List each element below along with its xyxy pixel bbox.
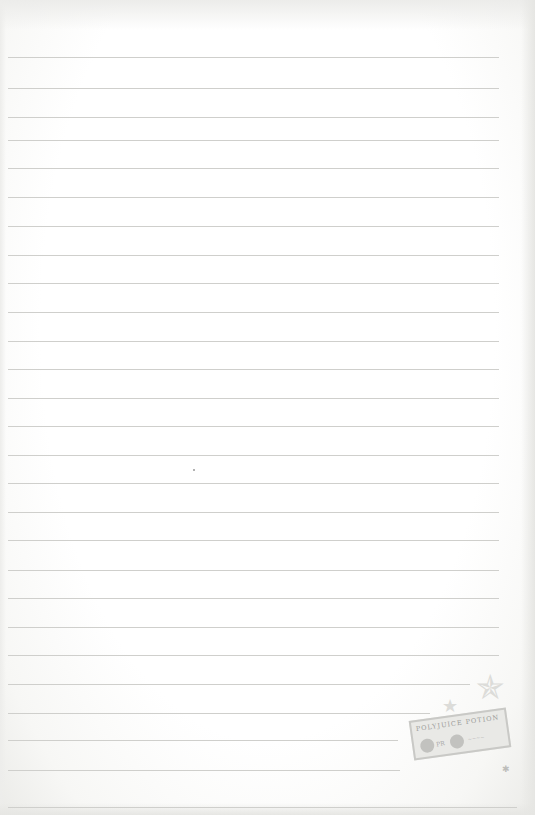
ruled-line <box>8 283 499 284</box>
seal-icon <box>449 734 465 750</box>
tiny-star-icon: ✱ <box>502 765 510 774</box>
lined-paper: ✯ ★ ✱ POLYJUICE POTION PR ~~~~ <box>0 0 535 815</box>
polyjuice-potion-label: POLYJUICE POTION PR ~~~~ <box>409 707 512 760</box>
top-edge-shadow <box>0 0 535 30</box>
ruled-line <box>8 197 499 198</box>
small-star-icon: ★ <box>442 697 458 715</box>
left-edge-shadow <box>0 0 6 815</box>
seal-icon <box>419 738 435 754</box>
ruled-line <box>8 807 517 808</box>
right-edge-shadow <box>521 0 535 815</box>
ruled-line <box>8 455 499 456</box>
ruled-line <box>8 740 398 741</box>
ruled-line <box>8 540 499 541</box>
ruled-line <box>8 168 499 169</box>
ruled-line <box>8 627 499 628</box>
ruled-line <box>8 369 499 370</box>
ruled-line <box>8 117 499 118</box>
ruled-line <box>8 713 430 714</box>
seal-text: PR <box>436 739 445 747</box>
ruled-line <box>8 684 470 685</box>
bottom-edge-shadow <box>0 803 535 815</box>
ruled-line <box>8 140 499 141</box>
speck <box>193 469 195 471</box>
large-star-icon: ✯ <box>476 670 504 704</box>
ruled-line <box>8 57 499 58</box>
ruled-line <box>8 483 499 484</box>
ruled-line <box>8 255 499 256</box>
ruled-line <box>8 770 400 771</box>
label-fine-print: ~~~~ <box>467 734 484 742</box>
ruled-line <box>8 570 499 571</box>
ruled-line <box>8 341 499 342</box>
ruled-line <box>8 312 499 313</box>
ruled-line <box>8 226 499 227</box>
ruled-line <box>8 655 499 656</box>
ruled-line <box>8 598 499 599</box>
ruled-line <box>8 426 499 427</box>
ruled-line <box>8 398 499 399</box>
ruled-line <box>8 512 499 513</box>
label-title: POLYJUICE POTION <box>415 713 499 733</box>
ruled-line <box>8 88 499 89</box>
